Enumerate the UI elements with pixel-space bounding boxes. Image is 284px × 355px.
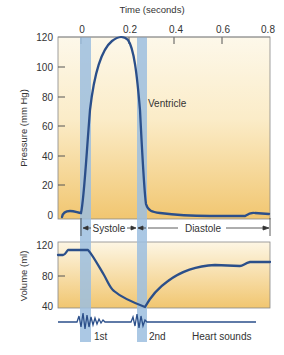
heart-sounds-label: Heart sounds — [192, 331, 251, 342]
x-tick-0-2: 0.2 — [123, 24, 137, 35]
y-tick-40: 40 — [42, 151, 54, 162]
y-tick-80: 80 — [42, 92, 54, 103]
volume-axis-title: Volume (ml) — [18, 251, 29, 302]
y-tick-120: 120 — [36, 32, 53, 43]
x-tick-0-4: 0.4 — [169, 24, 183, 35]
second-sound-label: 2nd — [149, 331, 166, 342]
pressure-y-tick-labels: 120 100 80 60 40 20 0 — [36, 32, 53, 221]
x-tick-0-8: 0.8 — [261, 24, 275, 35]
ventricle-label: Ventricle — [148, 98, 187, 109]
y-tick-60: 60 — [42, 121, 54, 132]
x-tick-0: 0 — [79, 24, 85, 35]
y-tick-100: 100 — [36, 62, 53, 73]
diastole-label: Diastole — [185, 223, 222, 234]
vol-tick-40: 40 — [42, 301, 54, 312]
cardiac-cycle-chart: Time (seconds) 0 0.2 0.4 0.6 0.8 120 100… — [0, 0, 284, 355]
vol-tick-80: 80 — [42, 271, 54, 282]
x-tick-labels: 0 0.2 0.4 0.6 0.8 — [79, 24, 275, 35]
y-tick-0: 0 — [47, 210, 53, 221]
systole-label: Systole — [93, 223, 126, 234]
volume-y-tick-labels: 120 80 40 — [36, 240, 53, 312]
first-sound-label: 1st — [94, 331, 108, 342]
pressure-axis-title: Pressure (mm Hg) — [18, 89, 29, 167]
x-axis-title: Time (seconds) — [119, 4, 184, 15]
x-tick-0-6: 0.6 — [216, 24, 230, 35]
band-first-isovolumetric — [80, 37, 91, 342]
vol-tick-120: 120 — [36, 240, 53, 251]
y-tick-20: 20 — [42, 180, 54, 191]
